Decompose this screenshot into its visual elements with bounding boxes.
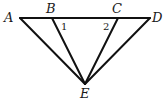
geometry-diagram: A B C D E 1 2 xyxy=(0,0,164,100)
segment-CE xyxy=(85,18,118,84)
point-label-E: E xyxy=(79,86,90,100)
segment-AE xyxy=(20,18,85,84)
segment-BE xyxy=(52,18,85,84)
segment-DE xyxy=(85,18,150,84)
diagram-svg: A B C D E 1 2 xyxy=(0,0,164,100)
point-label-D: D xyxy=(151,10,163,25)
angle-label-2: 2 xyxy=(103,21,109,32)
point-label-A: A xyxy=(3,10,13,25)
angle-label-1: 1 xyxy=(61,21,67,32)
point-label-B: B xyxy=(45,1,56,16)
point-label-C: C xyxy=(112,1,122,16)
